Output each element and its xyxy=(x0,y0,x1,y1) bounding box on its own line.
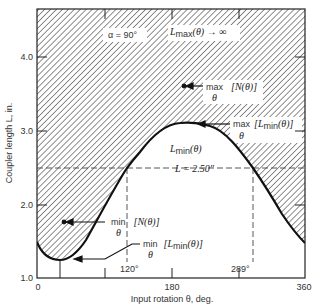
x-tick-0: 0 xyxy=(35,282,40,292)
min-lmin-theta: θ xyxy=(148,249,153,260)
lmin-curve-label: Lmin(θ) xyxy=(169,143,202,156)
y-axis-label: Coupler length L, in. xyxy=(4,103,14,184)
deg-289-label: 289° xyxy=(231,264,250,274)
l250-label: L = 2.50" xyxy=(174,163,215,174)
y-tick-2: 2.0 xyxy=(20,200,33,210)
x-tick-360: 360 xyxy=(296,282,311,292)
chart: α = 90° Lmax(θ) → ∞ max[N(θ)] θ max[Lmin… xyxy=(0,0,315,306)
min-n-theta: θ xyxy=(116,227,121,238)
deg-120-label: 120° xyxy=(120,264,139,274)
y-tick-4: 4.0 xyxy=(20,52,33,62)
max-lmin-theta: θ xyxy=(239,130,244,141)
alpha-label: α = 90° xyxy=(108,30,137,40)
y-tick-3: 3.0 xyxy=(20,126,33,136)
x-tick-180: 180 xyxy=(164,282,179,292)
x-axis-label: Input rotation θ, deg. xyxy=(131,294,214,304)
max-n-theta: θ xyxy=(212,92,217,103)
y-tick-1: 1.0 xyxy=(20,273,33,283)
